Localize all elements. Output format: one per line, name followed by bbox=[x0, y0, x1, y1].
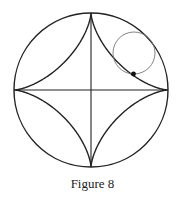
figure-caption: Figure 8 bbox=[0, 176, 185, 192]
tracing-point bbox=[131, 72, 136, 77]
rolling-circle bbox=[113, 32, 155, 74]
astroid-diagram bbox=[0, 0, 185, 201]
